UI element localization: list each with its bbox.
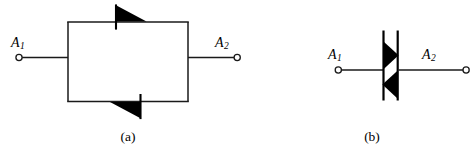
diode-bottom-a-triangle (110, 102, 141, 118)
terminal-label-a1-panel-b-sub: 1 (337, 53, 342, 63)
terminal-label-a2-panel-a: A2 (215, 36, 229, 52)
terminal-label-a1-panel-a-base: A (11, 35, 20, 50)
figure-panel-b: A1 A2 (b) (270, 0, 473, 157)
terminal-label-a1-panel-b: A1 (328, 48, 342, 64)
panel-b-caption: (b) (342, 130, 402, 144)
terminal-node-a1-b (335, 67, 341, 73)
terminal-label-a2-panel-b: A2 (422, 48, 436, 64)
terminal-node-a1-a (16, 54, 22, 60)
terminal-label-a2-panel-b-base: A (422, 47, 431, 62)
figure-container: A1 A2 (a) A1 (0, 0, 473, 157)
panel-a-caption: (a) (98, 130, 158, 144)
terminal-label-a1-panel-a: A1 (11, 36, 25, 52)
terminal-label-a1-panel-a-sub: 1 (20, 41, 25, 51)
terminal-node-a2-b (463, 67, 469, 73)
terminal-label-a2-panel-a-sub: 2 (224, 41, 229, 51)
triac-triangle-upper (384, 42, 399, 70)
triac-triangle-lower (382, 71, 397, 99)
terminal-label-a1-panel-b-base: A (328, 47, 337, 62)
figure-panel-a: A1 A2 (a) (0, 0, 270, 157)
terminal-node-a2-a (234, 54, 240, 60)
terminal-label-a2-panel-b-sub: 2 (431, 53, 436, 63)
diode-bottom-a (110, 94, 141, 119)
diode-top-a-triangle (116, 5, 147, 21)
terminal-label-a2-panel-a-base: A (215, 35, 224, 50)
diode-top-a (116, 4, 147, 29)
